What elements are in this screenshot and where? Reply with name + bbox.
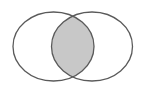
venn-svg	[0, 0, 142, 90]
venn-diagram	[0, 0, 142, 90]
